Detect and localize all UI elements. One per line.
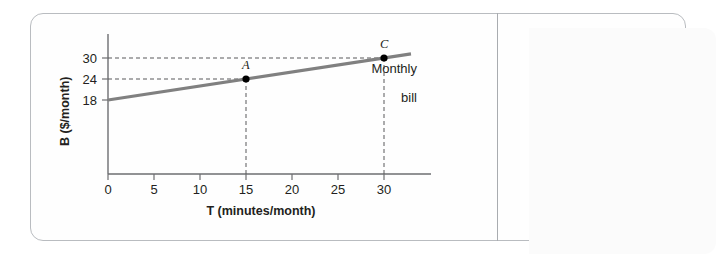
figure-card: 30 24 18 0 5 10 15 20 25 30 B ($/month) …: [30, 13, 686, 241]
data-point-a: [242, 75, 249, 82]
x-tick-label-10: 10: [185, 182, 215, 197]
panel-divider: [497, 13, 498, 241]
y-axis-label: B ($/month): [58, 77, 72, 146]
series-annotation-line-1: Monthly: [342, 62, 417, 77]
y-tick-label-30: 30: [67, 51, 97, 66]
chart-plot-area: 30 24 18 0 5 10 15 20 25 30 B ($/month) …: [31, 14, 501, 242]
x-tick-label-5: 5: [139, 182, 169, 197]
right-blank-panel: [529, 28, 716, 254]
series-annotation-line-2: bill: [342, 91, 417, 106]
data-point-label-a: A: [242, 58, 250, 73]
x-tick-label-25: 25: [323, 182, 353, 197]
x-axis-label: T (minutes/month): [171, 204, 351, 218]
x-tick-label-0: 0: [93, 182, 123, 197]
x-tick-label-20: 20: [277, 182, 307, 197]
x-axis-ticks: [108, 174, 384, 180]
y-axis-ticks: [102, 58, 108, 100]
series-annotation-monthly-bill: Monthly bill: [342, 47, 417, 120]
x-tick-label-15: 15: [231, 182, 261, 197]
x-tick-label-30: 30: [369, 182, 399, 197]
